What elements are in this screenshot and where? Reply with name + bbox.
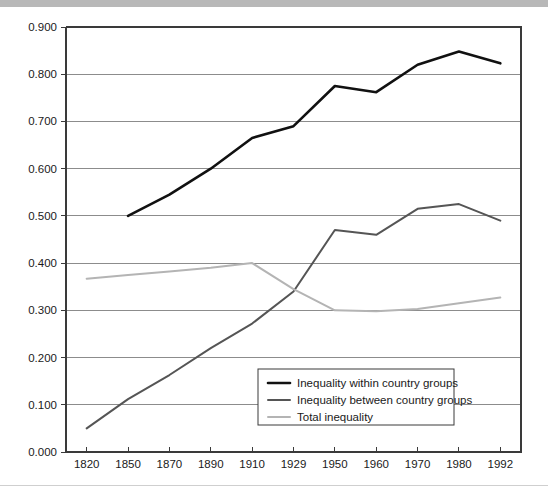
chart-figure: 0.0000.1000.2000.3000.4000.5000.6000.700… [0,7,548,485]
y-axis-tick-label: 0.300 [28,304,57,316]
chart-legend: Inequality within country groupsInequali… [258,369,472,425]
x-axis-tick-label: 1950 [322,458,348,470]
x-axis-tick-label: 1820 [74,458,100,470]
x-axis-labels: 1820185018701890191019291950196019701980… [74,458,513,470]
y-axis-labels: 0.0000.1000.2000.3000.4000.5000.6000.700… [28,21,57,458]
y-axis-tick-label: 0.700 [28,115,57,127]
series-line [128,52,500,216]
y-axis-tick-label: 0.500 [28,210,57,222]
x-axis-tick-label: 1910 [239,458,265,470]
top-gray-band [0,0,548,7]
x-axis-tick-label: 1890 [198,458,224,470]
y-axis-tick-label: 0.900 [28,21,57,33]
y-axis-tick-label: 0.800 [28,68,57,80]
legend-label: Inequality between country groups [297,394,472,406]
y-axis-tick-label: 0.000 [28,446,57,458]
bottom-divider [0,485,548,486]
legend-label: Inequality within country groups [297,377,458,389]
legend-label: Total inequality [297,411,373,423]
y-axis-tick-label: 0.400 [28,257,57,269]
y-axis-tick-label: 0.200 [28,352,57,364]
x-axis-tick-label: 1850 [115,458,141,470]
x-axis-tick-label: 1992 [488,458,514,470]
line-chart: 0.0000.1000.2000.3000.4000.5000.6000.700… [0,7,548,485]
x-axis-tick-label: 1970 [405,458,431,470]
series-line [87,263,501,311]
gridlines-group [66,27,521,405]
x-axis-tick-label: 1980 [446,458,472,470]
y-axis-tick-label: 0.100 [28,399,57,411]
x-axis-tick-label: 1929 [281,458,307,470]
x-axis-tick-label: 1870 [157,458,183,470]
x-axis-tick-label: 1960 [363,458,389,470]
y-axis-tick-label: 0.600 [28,163,57,175]
